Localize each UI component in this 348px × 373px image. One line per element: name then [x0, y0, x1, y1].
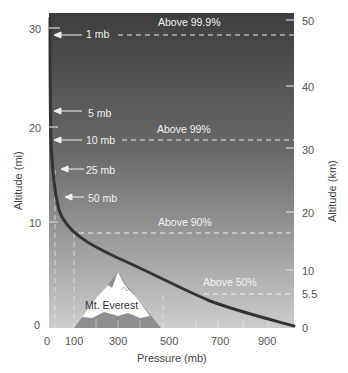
y-left-tick-0: 0 [34, 319, 40, 331]
y-right-tick-10: 10 [302, 265, 314, 277]
arrow-label-10mb: 10 mb [86, 134, 115, 146]
y-right-tick-30: 30 [302, 144, 314, 156]
level-label-99-9: Above 99.9% [158, 16, 220, 28]
y-left-axis-title: Altitude (mi) [12, 151, 24, 210]
level-label-90: Above 90% [158, 216, 212, 228]
arrow-label-50mb: 50 mb [88, 192, 117, 204]
x-tick-100: 100 [65, 335, 83, 347]
x-tick-900: 900 [258, 335, 276, 347]
arrow-label-5mb: 5 mb [88, 107, 112, 119]
arrow-label-25mb: 25 mb [86, 164, 115, 176]
y-right-tick-5-5: 5.5 [302, 288, 317, 300]
level-label-50: Above 50% [203, 276, 257, 288]
y-left-tick-20: 20 [29, 122, 41, 134]
x-tick-0: 0 [44, 335, 50, 347]
x-tick-700: 700 [211, 335, 229, 347]
y-left-tick-30: 30 [29, 23, 41, 35]
y-right-tick-20: 20 [302, 207, 314, 219]
y-right-tick-50: 50 [302, 15, 314, 27]
y-right-tick-40: 40 [302, 81, 314, 93]
x-axis-title: Pressure (mb) [137, 352, 207, 364]
y-left-tick-10: 10 [29, 217, 41, 229]
pressure-altitude-chart: Mt. Everest 1 mb 5 mb 10 mb 25 mb 50 mb … [0, 0, 348, 373]
x-tick-300: 300 [109, 335, 127, 347]
y-right-axis-title: Altitude (km) [326, 160, 338, 222]
arrow-label-1mb: 1 mb [86, 28, 110, 40]
mt-everest-label: Mt. Everest [85, 299, 138, 311]
y-right-tick-0: 0 [302, 322, 308, 334]
level-label-99: Above 99% [157, 123, 211, 135]
x-tick-500: 500 [160, 335, 178, 347]
